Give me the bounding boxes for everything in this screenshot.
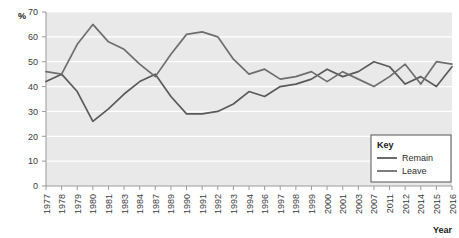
x-tick-label-2016: 2016 [448, 194, 458, 214]
x-tick-label-2003: 2003 [354, 194, 364, 214]
legend: KeyRemainLeave [371, 135, 451, 182]
x-tick-label-1990: 1990 [182, 194, 192, 214]
y-tick-label-0: 0 [33, 181, 38, 191]
x-tick-label-2014: 2014 [416, 194, 426, 214]
chart-canvas: 010203040506070 197719781979198019811983… [0, 0, 459, 238]
x-tick-label-2011: 2011 [385, 194, 395, 213]
x-tick-label-1981: 1981 [104, 194, 114, 214]
legend-title: Key [377, 140, 394, 150]
x-tick-label-1980: 1980 [88, 194, 98, 214]
y-tick-label-70: 70 [28, 7, 38, 17]
x-tick-label-1996: 1996 [260, 194, 270, 214]
legend-label-leave: Leave [402, 166, 427, 176]
x-tick-label-1979: 1979 [73, 194, 83, 214]
x-tick-label-1978: 1978 [57, 194, 67, 214]
x-tick-label-2015: 2015 [432, 194, 442, 214]
x-tick-label-2001: 2001 [338, 194, 348, 214]
x-tick-label-1977: 1977 [42, 194, 52, 214]
line-chart: 010203040506070 197719781979198019811983… [0, 0, 459, 238]
x-tick-label-1999: 1999 [307, 194, 317, 214]
x-tick-label-1984: 1984 [135, 194, 145, 214]
x-tick-label-1989: 1989 [166, 194, 176, 214]
x-tick-label-1991: 1991 [198, 194, 208, 214]
x-tick-label-2012: 2012 [401, 194, 411, 214]
x-tick-label-1987: 1987 [151, 194, 161, 214]
y-tick-label-60: 60 [28, 32, 38, 42]
x-axis-title: Year [433, 225, 453, 235]
y-tick-label-20: 20 [28, 132, 38, 142]
x-tick-label-1992: 1992 [213, 194, 223, 214]
x-tick-label-2000: 2000 [323, 194, 333, 214]
x-tick-label-1994: 1994 [245, 194, 255, 214]
x-tick-label-1997: 1997 [276, 194, 286, 214]
y-tick-label-40: 40 [28, 82, 38, 92]
legend-label-remain: Remain [402, 153, 433, 163]
x-tick-label-1983: 1983 [120, 194, 130, 214]
x-tick-label-1998: 1998 [291, 194, 301, 214]
x-tick-label-1993: 1993 [229, 194, 239, 214]
y-tick-label-50: 50 [28, 57, 38, 67]
y-tick-label-10: 10 [28, 156, 38, 166]
x-tick-label-2007: 2007 [369, 194, 379, 214]
y-axis-unit-label: % [18, 11, 26, 21]
y-tick-label-30: 30 [28, 107, 38, 117]
